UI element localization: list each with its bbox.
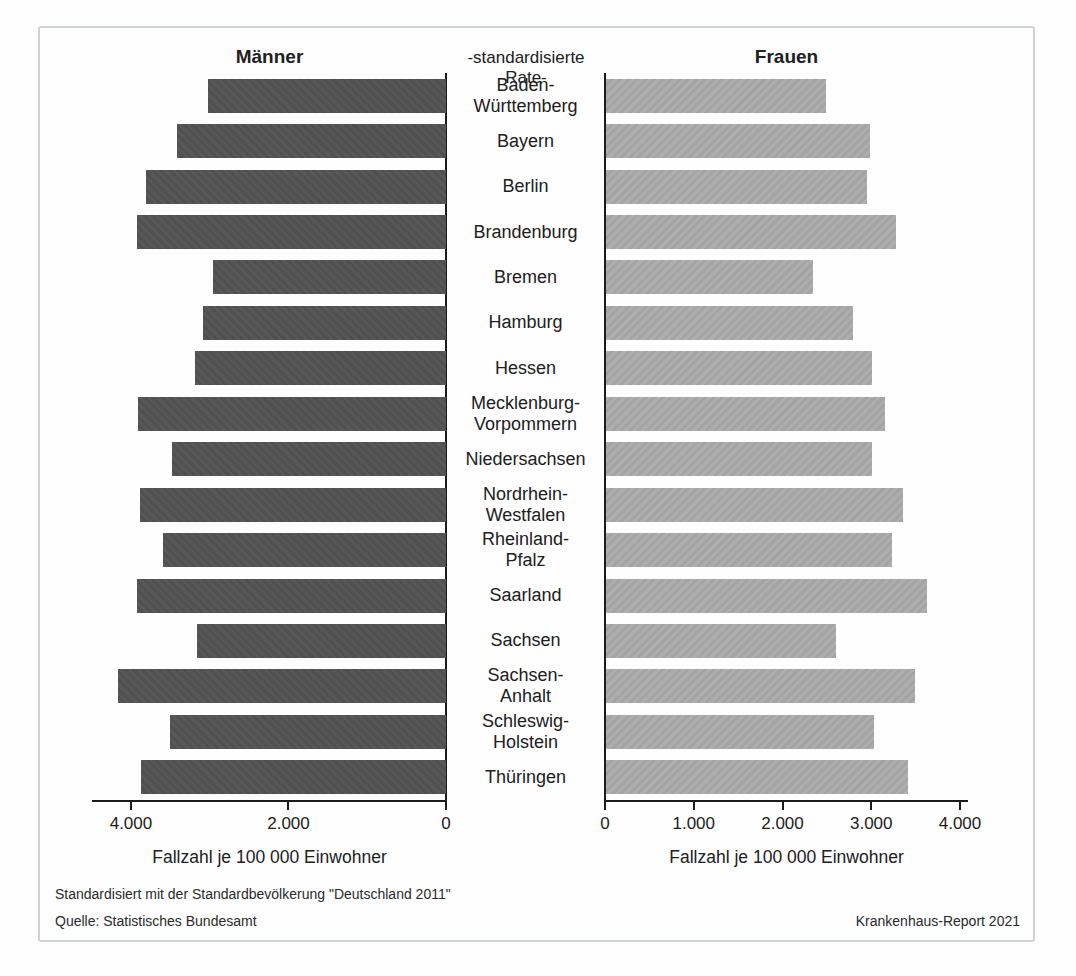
female-bar-row (606, 573, 968, 618)
male-bar (203, 306, 446, 340)
column-header-women: Frauen (605, 46, 968, 68)
male-bar (208, 79, 446, 113)
female-bar (606, 260, 813, 294)
report-credit: Krankenhaus-Report 2021 (856, 913, 1020, 929)
female-bar (606, 715, 874, 749)
axis-tick-label: 2.000 (761, 814, 804, 834)
male-bar (146, 170, 446, 204)
female-bar (606, 669, 915, 703)
male-bar (137, 579, 447, 613)
axis-tick (959, 802, 961, 810)
state-label: Rheinland-Pfalz (447, 527, 604, 572)
male-bar (177, 124, 446, 158)
axis-tick (870, 802, 872, 810)
left-axis-ticks: 4.0002.0000 (92, 802, 446, 842)
right-axis-ticks: 01.0002.0003.0004.000 (605, 802, 968, 842)
male-bar-row (92, 709, 446, 754)
female-bar-row (606, 755, 968, 800)
female-bar-row (606, 164, 968, 209)
state-label: Bremen (447, 255, 604, 300)
axis-tick-label: 4.000 (110, 814, 153, 834)
male-bar (172, 442, 446, 476)
male-bar-row (92, 255, 446, 300)
axis-tick (693, 802, 695, 810)
axis-tick-label: 0 (441, 814, 450, 834)
male-bar-row (92, 618, 446, 663)
state-label: Niedersachsen (447, 437, 604, 482)
female-bar-row (606, 391, 968, 436)
column-header-men: Männer (92, 46, 447, 68)
female-bar (606, 397, 885, 431)
source-note: Quelle: Statistisches Bundesamt (55, 913, 257, 929)
figure: Männer -standardisierte Rate- Frauen Bad… (0, 0, 1076, 976)
state-label: Brandenburg (447, 209, 604, 254)
female-bar (606, 442, 872, 476)
male-bar-row (92, 437, 446, 482)
axis-tick-label: 2.000 (267, 814, 310, 834)
female-bar-row (606, 346, 968, 391)
female-bar-row (606, 209, 968, 254)
state-label: Schleswig-Holstein (447, 709, 604, 754)
axis-tick-label: 0 (600, 814, 609, 834)
axis-tick (130, 802, 132, 810)
male-bar (137, 215, 446, 249)
male-bar-row (92, 527, 446, 572)
male-bar-row (92, 482, 446, 527)
female-bar (606, 124, 870, 158)
axis-tick (604, 802, 606, 810)
male-bar-row (92, 209, 446, 254)
female-bar-row (606, 118, 968, 163)
male-bar-row (92, 346, 446, 391)
female-bar-row (606, 437, 968, 482)
state-label: Hamburg (447, 300, 604, 345)
male-bar (197, 624, 446, 658)
female-bar-row (606, 73, 968, 118)
female-bar (606, 624, 836, 658)
male-bar-row (92, 164, 446, 209)
female-bar-row (606, 300, 968, 345)
male-bar (170, 715, 446, 749)
state-label: Nordrhein-Westfalen (447, 482, 604, 527)
male-bar-row (92, 118, 446, 163)
state-label: Sachsen (447, 618, 604, 663)
female-bar-row (606, 618, 968, 663)
female-bar (606, 760, 908, 794)
state-label: Mecklenburg-Vorpommern (447, 391, 604, 436)
axis-tick (782, 802, 784, 810)
female-bar (606, 79, 826, 113)
male-bar (213, 260, 446, 294)
female-bar (606, 488, 903, 522)
male-bar-row (92, 391, 446, 436)
male-bar-row (92, 300, 446, 345)
left-axis-caption: Fallzahl je 100 000 Einwohner (92, 847, 447, 868)
male-bar (138, 397, 446, 431)
male-bar (195, 351, 446, 385)
right-axis-caption: Fallzahl je 100 000 Einwohner (605, 847, 968, 868)
axis-tick-label: 1.000 (672, 814, 715, 834)
male-bar (140, 488, 446, 522)
state-label: Sachsen-Anhalt (447, 664, 604, 709)
male-bar-row (92, 755, 446, 800)
standardization-note: Standardisiert mit der Standardbevölkeru… (55, 886, 451, 902)
state-label: Berlin (447, 164, 604, 209)
male-bar-row (92, 664, 446, 709)
female-bar-row (606, 709, 968, 754)
state-label: Hessen (447, 346, 604, 391)
female-bars (606, 73, 968, 800)
state-label: Saarland (447, 573, 604, 618)
female-bar-row (606, 255, 968, 300)
axis-tick-label: 4.000 (939, 814, 982, 834)
axis-tick-label: 3.000 (850, 814, 893, 834)
state-label: Thüringen (447, 755, 604, 800)
male-bar (163, 533, 446, 567)
state-label: Bayern (447, 118, 604, 163)
state-labels-column: Baden-WürttembergBayernBerlinBrandenburg… (447, 73, 604, 800)
axis-tick (445, 802, 447, 810)
male-bar (118, 669, 446, 703)
male-bar-row (92, 573, 446, 618)
female-bar (606, 306, 853, 340)
female-bar (606, 579, 927, 613)
male-bar-row (92, 73, 446, 118)
axis-tick (287, 802, 289, 810)
female-bar (606, 351, 872, 385)
